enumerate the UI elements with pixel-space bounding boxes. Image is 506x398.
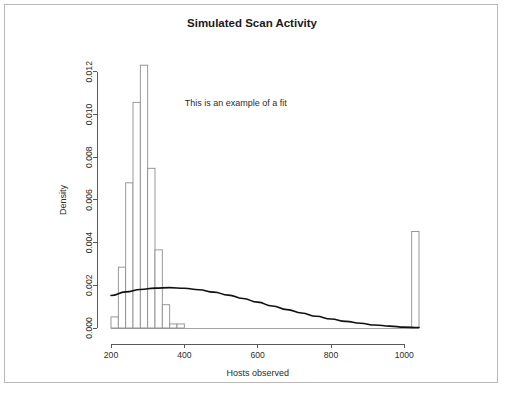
y-axis-tick-label: 0.010 [84,104,94,126]
chart-annotation: This is an example of a fit [185,98,288,108]
y-axis-tick-label: 0.006 [84,189,94,211]
x-axis-title: Hosts observed [226,368,289,378]
figure-frame: Simulated Scan ActivityThis is an exampl… [4,4,498,383]
y-axis-tick-label: 0.012 [84,61,94,83]
y-axis-tick-label: 0.002 [84,274,94,296]
x-axis-tick-label: 1000 [395,350,414,360]
y-axis-title: Density [58,184,68,215]
histogram-bar [170,324,177,328]
histogram-bar [148,168,155,328]
x-axis-tick-label: 600 [250,350,265,360]
histogram-bar [118,267,125,328]
histogram-bar [111,317,118,328]
x-axis-tick-label: 200 [104,350,119,360]
x-axis-tick-label: 400 [177,350,192,360]
y-axis-tick-label: 0.008 [84,146,94,168]
y-axis-tick-label: 0.004 [84,232,94,254]
y-axis-tick-label: 0.000 [84,317,94,339]
histogram-bar [412,232,419,328]
chart-canvas: Simulated Scan ActivityThis is an exampl… [5,5,499,384]
histogram-bar [155,250,162,328]
x-axis-tick-label: 800 [324,350,339,360]
chart-title: Simulated Scan Activity [187,17,318,29]
histogram-bar [126,183,133,328]
histogram-bar [162,305,169,328]
histogram-bar [177,324,184,328]
histogram-bar [133,102,140,328]
